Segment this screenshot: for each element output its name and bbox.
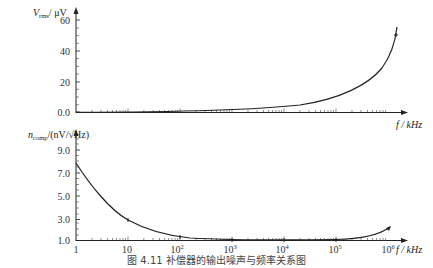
bottom-ytick-1: 1.0 — [58, 235, 71, 246]
bottom-ytick-9: 9.0 — [58, 145, 71, 156]
bottom-series-line — [76, 163, 390, 240]
bottom-x-arrow-icon — [401, 238, 408, 243]
top-y-title: Vrms/ μV — [33, 7, 67, 19]
bottom-plot: 9.0 7.0 5.0 3.0 1.0 — [28, 129, 422, 255]
top-plot: 60 40 20 0.0 — [33, 7, 422, 130]
bottom-series-arrow-icon — [386, 226, 391, 231]
bottom-ytick-3: 3.0 — [58, 214, 71, 225]
top-ytick-0: 0.0 — [58, 107, 71, 118]
top-series-line — [76, 27, 397, 112]
figure: 60 40 20 0.0 — [0, 0, 433, 268]
top-ytick-20: 20 — [60, 77, 70, 88]
top-y-arrow-icon — [74, 7, 79, 14]
top-ytick-40: 40 — [60, 46, 70, 57]
bottom-ytick-7: 7.0 — [58, 168, 71, 179]
bottom-y-title: ncomp/(nV/√Hz) — [28, 129, 89, 141]
figure-caption: 图 4.11 补偿器的输出噪声与频率关系图 — [0, 252, 433, 267]
bottom-ytick-5: 5.0 — [58, 191, 71, 202]
top-x-title: f / kHz — [396, 119, 422, 130]
top-x-arrow-icon — [401, 110, 408, 115]
